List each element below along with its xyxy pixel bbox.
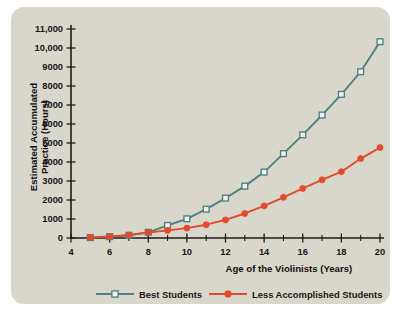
x-tick-label: 8 (146, 247, 151, 257)
data-point-marker (184, 216, 190, 222)
data-point-marker (377, 145, 383, 151)
y-tick-label: 2000 (42, 195, 63, 205)
data-point-marker (242, 210, 248, 216)
data-point-marker (319, 177, 325, 183)
y-tick-label: 9000 (42, 62, 63, 72)
legend-label-0: Best Students (139, 289, 202, 300)
data-point-marker (107, 233, 113, 239)
data-point-marker (338, 91, 344, 97)
x-tick-label: 14 (259, 247, 270, 257)
legend-label-1: Less Accomplished Students (252, 289, 382, 300)
y-tick-label: 10,000 (35, 43, 63, 53)
line-chart: 010002000300040005000600070008000900010,… (11, 7, 390, 304)
data-point-marker (358, 156, 364, 162)
x-tick-label: 10 (182, 247, 192, 257)
data-point-marker (300, 132, 306, 138)
data-point-marker (165, 227, 171, 233)
x-tick-label: 18 (336, 247, 346, 257)
data-point-marker (338, 169, 344, 175)
chart-card: 010002000300040005000600070008000900010,… (11, 7, 390, 304)
data-point-marker (223, 195, 229, 201)
data-point-marker (126, 232, 132, 238)
data-point-marker (87, 235, 93, 241)
x-tick-label: 6 (107, 247, 112, 257)
data-point-marker (280, 194, 286, 200)
data-point-marker (223, 217, 229, 223)
legend-marker-circle (225, 291, 232, 298)
series-line-best-students (90, 42, 380, 238)
x-axis-title: Age of the Violinists (Years) (226, 263, 353, 274)
x-tick-label: 12 (220, 247, 230, 257)
y-tick-label: 11,000 (35, 24, 63, 34)
data-point-marker (358, 69, 364, 75)
data-point-marker (242, 183, 248, 189)
data-point-marker (377, 39, 383, 45)
data-point-marker (184, 225, 190, 231)
data-point-marker (300, 185, 306, 191)
y-tick-label: 8000 (42, 81, 63, 91)
data-point-marker (281, 151, 287, 157)
y-axis-title-line1: Estimated Accumulated (28, 83, 39, 192)
data-point-marker (145, 229, 151, 235)
data-point-marker (261, 203, 267, 209)
legend-marker-square (112, 291, 118, 297)
y-tick-label: 0 (58, 233, 63, 243)
x-tick-label: 16 (298, 247, 308, 257)
x-tick-label: 20 (375, 247, 385, 257)
data-point-marker (261, 169, 267, 175)
data-point-marker (319, 112, 325, 118)
y-axis-title-line2: Practice (Hours) (39, 100, 50, 174)
x-tick-label: 4 (68, 247, 74, 257)
data-point-marker (203, 222, 209, 228)
y-tick-label: 1000 (42, 214, 63, 224)
y-tick-label: 3000 (42, 176, 63, 186)
data-point-marker (203, 206, 209, 212)
